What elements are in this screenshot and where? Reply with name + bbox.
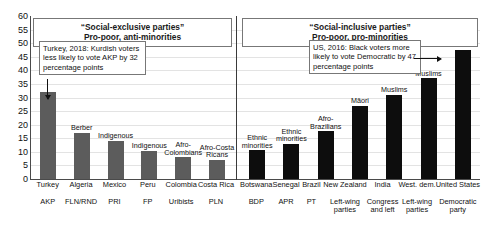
x-tick-country: Mexico — [98, 181, 131, 189]
x-axis-label-cell: PeruFP — [131, 181, 164, 207]
x-tick-country: Senegal — [272, 181, 299, 189]
x-axis-labels-inclusive: BotswanaBDPSenegalAPRBrazilPTNew Zealand… — [240, 181, 480, 207]
panel-header-line1: “Social-inclusive parties” — [245, 22, 475, 32]
bar-group-label: Indigenous — [93, 132, 139, 140]
bar — [40, 92, 56, 179]
x-axis-label-cell: MexicoPRI — [98, 181, 131, 207]
bar — [141, 151, 157, 179]
bar — [249, 150, 265, 179]
bar — [318, 131, 334, 179]
x-tick-party: BDP — [240, 198, 272, 206]
y-tick-label: 25 — [18, 107, 28, 116]
y-tick-label: 45 — [18, 52, 28, 61]
bar — [108, 141, 124, 179]
x-tick-party: APR — [272, 198, 299, 206]
x-tick-country: Algeria — [64, 181, 97, 189]
bar — [386, 95, 402, 179]
x-tick-party: FLN/RND — [64, 198, 97, 206]
bar — [175, 157, 191, 179]
x-tick-country: Peru — [131, 181, 164, 189]
x-tick-country: Costa Rica — [198, 181, 234, 189]
bar-group-label: Afro-Costa Ricans — [194, 144, 240, 159]
x-axis-label-cell: United StatesDemocratic party — [436, 181, 480, 207]
bar — [455, 50, 471, 179]
y-tick-label: 5 — [23, 161, 28, 170]
x-tick-country: United States — [436, 181, 480, 189]
x-tick-party: Left-wing parties — [398, 198, 435, 214]
x-tick-party: Congress and left — [367, 198, 399, 214]
y-tick-label: 20 — [18, 120, 28, 129]
bar-chart: 605550454035302520151050 “Social-exclusi… — [0, 0, 481, 237]
y-tick-label: 0 — [23, 175, 28, 184]
y-tick-label: 50 — [18, 39, 28, 48]
y-tick-label: 60 — [18, 12, 28, 21]
bar-group-label: Muslims — [371, 86, 417, 94]
x-tick-country: Botswana — [240, 181, 272, 189]
x-tick-country: Colombia — [165, 181, 198, 189]
annotation-turkey: Turkey, 2018: Kurdish voters less likely… — [39, 41, 146, 75]
x-axis-label-cell: AlgeriaFLN/RND — [64, 181, 97, 207]
y-tick-label: 40 — [18, 66, 28, 75]
y-tick-label: 10 — [18, 147, 28, 156]
x-tick-party: Democratic party — [436, 198, 480, 214]
x-tick-country: Turkey — [31, 181, 64, 189]
x-tick-party: PLN — [198, 198, 234, 206]
y-tick-label: 15 — [18, 134, 28, 143]
x-tick-country: Brazil — [300, 181, 324, 189]
bar — [421, 78, 437, 179]
panel-header-line1: “Social-exclusive parties” — [36, 22, 229, 32]
x-tick-country: New Zealand — [323, 181, 367, 189]
x-axis-label-cell: ColombiaUribists — [165, 181, 198, 207]
x-tick-country: West. dem. — [398, 181, 435, 189]
bar — [283, 144, 299, 179]
x-axis-label-cell: TurkeyAKP — [31, 181, 64, 207]
x-axis-label-cell: IndiaCongress and left — [367, 181, 399, 207]
x-tick-party: PT — [300, 198, 324, 206]
x-tick-party: Uribists — [165, 198, 198, 206]
x-axis-labels-exclusive: TurkeyAKPAlgeriaFLN/RNDMexicoPRIPeruFPCo… — [31, 181, 234, 207]
bar — [209, 160, 225, 179]
x-axis-label-cell: BrazilPT — [300, 181, 324, 207]
bar-group-label: Afro- Brazilians — [303, 115, 349, 130]
x-axis-label-cell: BotswanaBDP — [240, 181, 272, 207]
bar — [74, 133, 90, 179]
x-axis-label-cell: New ZealandLeft-wing parties — [323, 181, 367, 207]
y-tick-label: 30 — [18, 93, 28, 102]
x-axis-label-cell: West. dem.Left-wing parties — [398, 181, 435, 207]
x-tick-party: PRI — [98, 198, 131, 206]
x-tick-party: Left-wing parties — [323, 198, 367, 214]
bar — [352, 106, 368, 179]
x-axis-label-cell: SenegalAPR — [272, 181, 299, 207]
x-axis-label-cell: Costa RicaPLN — [198, 181, 234, 207]
y-tick-label: 55 — [18, 25, 28, 34]
x-tick-party: AKP — [31, 198, 64, 206]
y-tick-label: 35 — [18, 79, 28, 88]
y-axis: 605550454035302520151050 — [0, 16, 30, 179]
annotation-us: US, 2016: Black voters more likely to vo… — [309, 40, 421, 74]
bar-group-label: Māori — [337, 97, 383, 105]
x-tick-country: India — [367, 181, 399, 189]
x-tick-party: FP — [131, 198, 164, 206]
